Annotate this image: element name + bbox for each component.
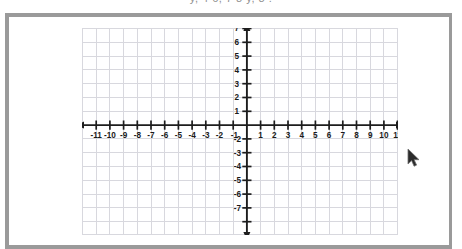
x-axis-left-arrowhead [82, 122, 84, 129]
x-tick-label: 6 [327, 131, 332, 140]
y-tick-label: -3 [234, 149, 242, 158]
x-tick-label: 5 [313, 131, 318, 140]
x-tick-label: 3 [286, 131, 291, 140]
x-tick-label: -5 [175, 131, 183, 140]
y-tick-label: 6 [234, 38, 239, 47]
mouse-pointer-arrow-icon [407, 148, 423, 170]
x-tick-label: -6 [161, 131, 169, 140]
x-tick-label: 8 [354, 131, 359, 140]
x-tick-label: -4 [188, 131, 196, 140]
x-tick-label: -2 [216, 131, 224, 140]
x-tick-label: 9 [368, 131, 373, 140]
x-axis-negative-labels: -11 -10 -9 -8 -7 -6 -5 -4 -3 -2 -1 [91, 131, 239, 140]
y-tick-label: 1 [234, 107, 239, 116]
y-tick-label: -2 [234, 135, 242, 144]
x-tick-label: -9 [120, 131, 128, 140]
x-tick-label: -8 [134, 131, 142, 140]
x-tick-label: -10 [104, 131, 116, 140]
x-tick-label: 11 [393, 131, 398, 140]
y-tick-label: -5 [234, 176, 242, 185]
x-tick-label: -3 [202, 131, 210, 140]
y-tick-label: 4 [234, 66, 239, 75]
graph-frame: -11 -10 -9 -8 -7 -6 -5 -4 -3 -2 -1 1 2 3… [5, 13, 452, 249]
y-tick-label: -4 [234, 162, 242, 171]
y-tick-label: -7 [234, 204, 242, 213]
clipped-text-above-strip: y, 4 6, 7 8 y, 8 . [0, 0, 462, 11]
x-tick-label: 1 [258, 131, 263, 140]
y-tick-label: 7 [234, 28, 239, 33]
y-tick-label: 5 [234, 52, 239, 61]
coordinate-grid[interactable]: -11 -10 -9 -8 -7 -6 -5 -4 -3 -2 -1 1 2 3… [82, 28, 398, 235]
y-tick-label: 2 [234, 93, 239, 102]
clipped-text: y, 4 6, 7 8 y, 8 . [0, 0, 462, 4]
x-tick-label: 4 [299, 131, 304, 140]
x-tick-label: -7 [147, 131, 155, 140]
x-tick-label: 10 [379, 131, 389, 140]
x-tick-label: -11 [91, 131, 103, 140]
y-tick-label: -6 [234, 190, 242, 199]
x-tick-label: 2 [272, 131, 277, 140]
x-tick-label: 7 [341, 131, 346, 140]
y-tick-label: 3 [234, 80, 239, 89]
